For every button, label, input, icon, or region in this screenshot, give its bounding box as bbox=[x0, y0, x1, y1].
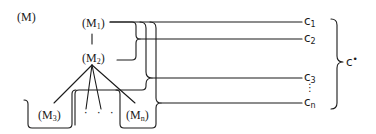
node-m2-prefix: (M bbox=[82, 51, 97, 65]
output-c2: c2 bbox=[304, 32, 316, 44]
edge-m2-ellipsis-left bbox=[86, 65, 92, 109]
node-ellipsis: · · · bbox=[84, 106, 116, 119]
node-m1-suffix: ) bbox=[101, 16, 105, 30]
output-cn-base: c bbox=[304, 95, 311, 109]
output-c2-base: c bbox=[304, 31, 311, 45]
node-m3-prefix: (M bbox=[38, 108, 53, 122]
node-m2: (M2) bbox=[82, 52, 105, 64]
node-mn: (Mn) bbox=[126, 109, 149, 121]
group-label-base: c bbox=[346, 55, 353, 69]
node-mn-suffix: ) bbox=[145, 108, 149, 122]
output-c1: c1 bbox=[304, 15, 316, 27]
output-c1-sub: 1 bbox=[311, 20, 316, 29]
bracket-m1-m2 bbox=[110, 22, 140, 60]
node-m3: (M3) bbox=[38, 109, 61, 121]
output-cn-sub: n bbox=[311, 101, 316, 110]
output-c1-base: c bbox=[304, 14, 311, 28]
diagram-title: (M) bbox=[17, 11, 36, 23]
group-label-c-star: c• bbox=[346, 56, 358, 68]
node-m1: (M1) bbox=[82, 17, 105, 29]
curly-brace-outputs bbox=[331, 19, 343, 109]
outputs-ellipsis: ⋮ bbox=[305, 86, 311, 90]
output-cn: cn bbox=[304, 96, 316, 108]
node-m2-suffix: ) bbox=[101, 51, 105, 65]
group-label-sup: • bbox=[353, 54, 358, 64]
node-mn-prefix: (M bbox=[126, 108, 141, 122]
output-c2-sub: 2 bbox=[311, 37, 316, 46]
node-m1-prefix: (M bbox=[82, 16, 97, 30]
edge-m2-m3 bbox=[54, 65, 92, 103]
node-m3-suffix: ) bbox=[57, 108, 61, 122]
